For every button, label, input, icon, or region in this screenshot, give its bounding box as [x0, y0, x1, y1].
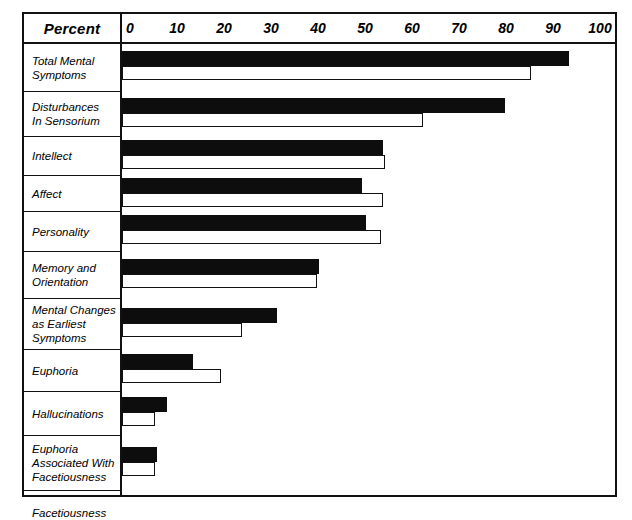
- bar-row: [122, 436, 615, 491]
- bar-solid: [122, 51, 569, 66]
- category-label-cell: Intellect: [24, 137, 122, 176]
- category-label-line: Facetiousness: [32, 506, 122, 520]
- x-tick-label: 70: [451, 20, 467, 36]
- bar-solid: [122, 354, 193, 369]
- category-label-column: Total MentalSymptomsDisturbancesIn Senso…: [24, 44, 122, 495]
- bar-hollow: [122, 66, 531, 80]
- bar-solid: [122, 447, 157, 462]
- bar-hollow: [122, 113, 423, 127]
- bar-solid: [122, 215, 366, 230]
- category-label-line: Euphoria: [32, 364, 122, 378]
- bar-row: [122, 212, 615, 252]
- category-label-line: Orientation: [32, 275, 122, 289]
- category-label-cell: Affect: [24, 176, 122, 212]
- bar-solid: [122, 397, 167, 412]
- category-label-cell: Mental Changesas EarliestSymptoms: [24, 299, 122, 350]
- chart-container: Percent 0102030405060708090100 Total Men…: [22, 12, 617, 497]
- category-label-cell: Facetiousness: [24, 491, 122, 520]
- category-label-cell: Hallucinations: [24, 392, 122, 436]
- percent-axis-title: Percent: [24, 14, 122, 42]
- bar-row: [122, 137, 615, 176]
- x-tick-label: 90: [545, 20, 561, 36]
- category-label-cell: EuphoriaAssociated WithFacetiousness: [24, 436, 122, 491]
- category-label-line: Associated With: [32, 456, 122, 470]
- x-tick-label: 20: [216, 20, 232, 36]
- category-label-line: In Sensorium: [32, 114, 122, 128]
- x-tick-label: 80: [498, 20, 514, 36]
- x-tick-label: 10: [169, 20, 185, 36]
- category-label-cell: Euphoria: [24, 350, 122, 392]
- bars-plot-area: [122, 44, 615, 495]
- category-label-line: Affect: [32, 187, 122, 201]
- x-tick-label: 100: [588, 20, 611, 36]
- category-label-line: Hallucinations: [32, 407, 122, 421]
- x-tick-label: 0: [126, 20, 134, 36]
- category-label-line: Symptoms: [32, 68, 122, 82]
- bar-row: [122, 491, 615, 495]
- bar-row: [122, 350, 615, 392]
- bar-row: [122, 252, 615, 299]
- bar-solid: [122, 140, 383, 155]
- category-label-line: as Earliest: [32, 317, 122, 331]
- bar-row: [122, 299, 615, 350]
- bar-row: [122, 92, 615, 137]
- category-label-line: Total Mental: [32, 54, 122, 68]
- bar-solid: [122, 98, 505, 113]
- x-tick-label: 40: [310, 20, 326, 36]
- x-axis-ticks: 0102030405060708090100: [122, 14, 615, 42]
- bar-solid: [122, 308, 277, 323]
- x-tick-label: 60: [404, 20, 420, 36]
- bar-hollow: [122, 155, 385, 169]
- category-label-line: Mental Changes: [32, 303, 122, 317]
- bar-hollow: [122, 274, 317, 288]
- bar-hollow: [122, 412, 155, 426]
- x-tick-label: 50: [357, 20, 373, 36]
- chart-body: Total MentalSymptomsDisturbancesIn Senso…: [24, 44, 615, 495]
- bar-row: [122, 392, 615, 436]
- bar-hollow: [122, 323, 242, 337]
- category-label-cell: Total MentalSymptoms: [24, 44, 122, 92]
- category-label-line: Facetiousness: [32, 470, 122, 484]
- chart-header: Percent 0102030405060708090100: [24, 14, 615, 44]
- bar-row: [122, 44, 615, 92]
- bar-hollow: [122, 369, 221, 383]
- category-label-line: Symptoms: [32, 331, 122, 345]
- bar-hollow: [122, 193, 383, 207]
- category-label-line: Memory and: [32, 261, 122, 275]
- category-label-line: Intellect: [32, 149, 122, 163]
- category-label-line: Disturbances: [32, 100, 122, 114]
- category-label-cell: Personality: [24, 212, 122, 252]
- category-label-cell: DisturbancesIn Sensorium: [24, 92, 122, 137]
- bar-solid: [122, 178, 362, 193]
- bar-hollow: [122, 462, 155, 476]
- category-label-line: Euphoria: [32, 442, 122, 456]
- category-label-cell: Memory andOrientation: [24, 252, 122, 299]
- bar-row: [122, 176, 615, 212]
- x-tick-label: 30: [263, 20, 279, 36]
- bar-solid: [122, 259, 319, 274]
- category-label-line: Personality: [32, 225, 122, 239]
- bar-hollow: [122, 230, 381, 244]
